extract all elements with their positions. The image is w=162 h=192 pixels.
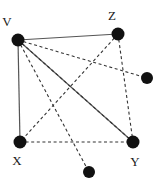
graph-node-label-v: V: [2, 15, 11, 28]
graph-edge-v-n1-dashed: [18, 40, 147, 78]
graph-node-v[interactable]: [12, 34, 25, 47]
graph-node-unlabeled-n2[interactable]: [83, 166, 95, 178]
graph-figure: VZXY: [0, 0, 162, 192]
graph-node-y[interactable]: [127, 136, 140, 149]
graph-edge-v-n2-dashed: [18, 40, 89, 172]
graph-node-label-x: X: [12, 154, 21, 167]
graph-node-unlabeled-n1[interactable]: [141, 72, 153, 84]
graph-node-z[interactable]: [112, 28, 125, 41]
graph-edge-v-x-solid: [18, 40, 20, 142]
graph-node-label-z: Z: [108, 9, 116, 22]
graph-node-x[interactable]: [14, 136, 27, 149]
edge-layer: [18, 34, 147, 172]
graph-edge-v-z-solid: [18, 34, 118, 40]
graph-node-label-y: Y: [130, 155, 139, 168]
graph-edge-z-x-dashed: [20, 34, 118, 142]
graph-edge-z-y-dashed: [118, 34, 133, 142]
